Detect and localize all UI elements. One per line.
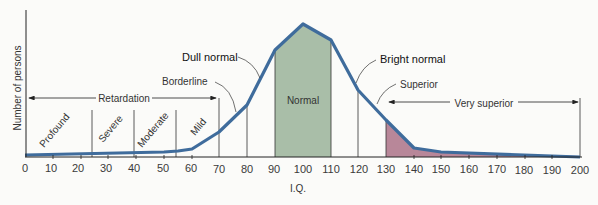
svg-text:160: 160 bbox=[460, 163, 478, 175]
profound-label: Profound bbox=[37, 111, 72, 149]
svg-text:30: 30 bbox=[100, 162, 112, 174]
svg-text:130: 130 bbox=[377, 163, 395, 175]
retardation-range: Retardation bbox=[29, 93, 216, 104]
svg-text:80: 80 bbox=[241, 163, 253, 175]
very-superior-region-fill bbox=[386, 120, 580, 157]
svg-text:Very superior: Very superior bbox=[455, 98, 515, 109]
severe-label: Severe bbox=[96, 113, 125, 145]
x-axis-label: I.Q. bbox=[290, 183, 306, 194]
svg-text:180: 180 bbox=[515, 164, 533, 176]
dull-normal-annotation: Dull normal bbox=[182, 51, 260, 78]
svg-text:110: 110 bbox=[322, 163, 340, 175]
normal-label: Normal bbox=[287, 95, 319, 106]
svg-text:40: 40 bbox=[128, 162, 140, 174]
svg-text:100: 100 bbox=[294, 163, 312, 175]
iq-distribution-chart: 0 10 20 30 40 50 60 70 80 90 100 110 120… bbox=[0, 0, 598, 205]
svg-text:190: 190 bbox=[543, 164, 561, 176]
svg-text:50: 50 bbox=[157, 162, 169, 174]
svg-text:200: 200 bbox=[571, 164, 589, 176]
svg-text:170: 170 bbox=[488, 163, 506, 175]
x-tick-labels: 0 10 20 30 40 50 60 70 80 90 100 110 120… bbox=[22, 162, 589, 176]
svg-text:140: 140 bbox=[405, 163, 423, 175]
moderate-label: Moderate bbox=[135, 110, 171, 150]
svg-text:90: 90 bbox=[268, 163, 280, 175]
superior-annotation: Superior bbox=[377, 79, 438, 104]
svg-text:Retardation: Retardation bbox=[98, 93, 150, 104]
svg-text:Bright normal: Bright normal bbox=[380, 53, 445, 65]
y-axis-label: Number of persons bbox=[12, 45, 23, 130]
svg-text:20: 20 bbox=[72, 162, 84, 174]
svg-text:10: 10 bbox=[45, 162, 57, 174]
mild-label: Mild bbox=[188, 116, 208, 137]
svg-text:120: 120 bbox=[350, 163, 368, 175]
svg-text:Borderline: Borderline bbox=[162, 76, 208, 87]
svg-text:60: 60 bbox=[185, 162, 197, 174]
svg-text:0: 0 bbox=[22, 162, 28, 174]
borderline-annotation: Borderline bbox=[162, 76, 236, 112]
very-superior-range: Very superior bbox=[389, 98, 578, 109]
svg-text:Dull normal: Dull normal bbox=[182, 51, 238, 63]
svg-text:150: 150 bbox=[432, 163, 450, 175]
svg-text:70: 70 bbox=[213, 163, 225, 175]
svg-text:Superior: Superior bbox=[400, 79, 438, 90]
